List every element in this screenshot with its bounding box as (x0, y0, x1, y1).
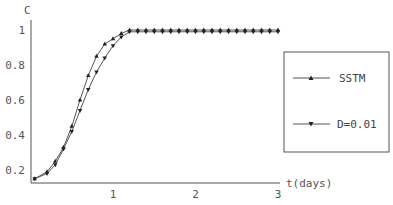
series-line (35, 32, 278, 179)
triangle-up-marker-icon (78, 98, 82, 102)
y-tick-labels: 0.20.40.60.81 (5, 24, 25, 177)
x-tick-label: 2 (192, 188, 199, 201)
y-axis-label: C (24, 4, 31, 17)
y-tick-label: 1 (18, 24, 25, 37)
y-tick-label: 0.6 (5, 94, 25, 107)
series-line (35, 30, 278, 179)
axes (31, 20, 280, 183)
legend-label-sstm: SSTM (339, 72, 366, 85)
legend-box (284, 52, 389, 152)
triangle-up-marker-icon (86, 73, 90, 77)
x-tick-label: 1 (110, 188, 117, 201)
x-tick-labels: 123 (110, 188, 282, 201)
triangle-down-marker-icon (94, 71, 98, 75)
x-tick-label: 3 (275, 188, 282, 201)
line-chart: C t(days) 0.20.40.60.81 123 SSTM D=0.01 (0, 0, 393, 205)
triangle-down-marker-icon (70, 130, 74, 134)
y-tick-label: 0.4 (5, 129, 25, 142)
triangle-down-marker-icon (78, 109, 82, 113)
legend-label-d001: D=0.01 (337, 118, 377, 131)
series-sstm (32, 28, 280, 181)
legend: SSTM D=0.01 (284, 52, 389, 152)
y-tick-label: 0.8 (5, 59, 25, 72)
y-tick-label: 0.2 (5, 164, 25, 177)
x-axis-label: t(days) (286, 177, 332, 190)
series-d001 (32, 30, 280, 181)
triangle-down-marker-icon (86, 88, 90, 92)
series-layer (32, 28, 280, 182)
